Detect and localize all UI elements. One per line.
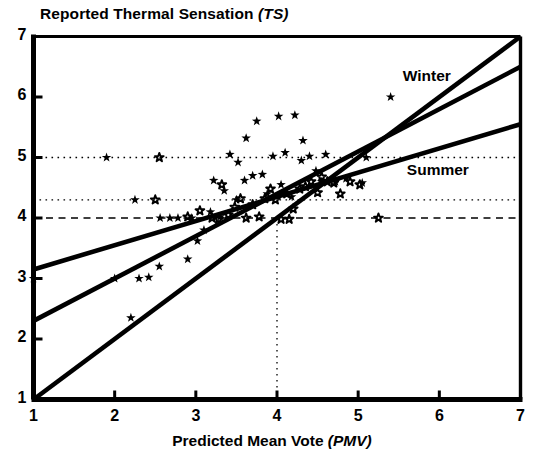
- data-point-summer: [196, 206, 205, 214]
- data-point-winter: [298, 136, 308, 145]
- data-point-winter: [252, 116, 262, 125]
- data-point-winter: [240, 175, 250, 184]
- data-point-summer: [374, 213, 383, 221]
- data-point-summer: [336, 189, 345, 197]
- summer-fit: [34, 124, 521, 269]
- data-point-winter: [305, 151, 315, 160]
- x-tick-label-4: 4: [264, 407, 290, 425]
- data-point-winter: [241, 133, 251, 142]
- data-point-summer: [183, 212, 192, 220]
- series-winter: [29, 92, 396, 322]
- y-tick-label-2: 2: [3, 328, 27, 346]
- series-label-winter: Winter: [403, 67, 451, 85]
- x-tick-label-6: 6: [426, 407, 452, 425]
- y-tick-label-3: 3: [3, 268, 27, 286]
- x-axis-label-text: Predicted Mean Vote: [172, 432, 323, 449]
- series-label-summer: Summer: [407, 161, 469, 179]
- y-tick-label-5: 5: [3, 147, 27, 165]
- data-point-summer: [155, 153, 164, 161]
- data-point-winter: [102, 153, 112, 162]
- data-point-winter: [274, 111, 284, 120]
- winter-fit: [34, 67, 521, 321]
- data-point-summer: [266, 184, 275, 192]
- data-point-winter: [183, 254, 193, 263]
- x-tick-label-3: 3: [183, 407, 209, 425]
- y-tick-label-6: 6: [3, 86, 27, 104]
- data-point-winter: [165, 213, 175, 222]
- data-point-winter: [386, 92, 396, 101]
- x-axis-label: Predicted Mean Vote (PMV): [0, 432, 544, 450]
- thermal-sensation-scatter-figure: Reported Thermal Sensation (TS) Predicte…: [0, 0, 544, 463]
- data-point-winter: [173, 213, 183, 222]
- data-point-winter: [144, 272, 154, 281]
- data-point-winter: [258, 169, 268, 178]
- y-tick-label-7: 7: [3, 26, 27, 44]
- data-point-winter: [126, 313, 136, 322]
- data-point-winter: [248, 171, 258, 180]
- x-tick-label-5: 5: [345, 407, 371, 425]
- data-point-summer: [217, 180, 226, 188]
- x-tick-label-1: 1: [21, 407, 47, 425]
- data-point-winter: [155, 213, 165, 222]
- data-point-summer: [236, 194, 245, 202]
- x-axis-label-symbol: (PMV): [328, 432, 372, 449]
- data-point-winter: [280, 148, 290, 157]
- x-tick-label-2: 2: [102, 407, 128, 425]
- data-point-summer: [151, 195, 160, 203]
- plot-canvas: [0, 0, 544, 463]
- y-tick-label-4: 4: [3, 207, 27, 225]
- data-point-winter: [134, 274, 144, 283]
- data-point-winter: [233, 157, 243, 166]
- x-tick-label-7: 7: [508, 407, 534, 425]
- data-point-winter: [290, 110, 300, 119]
- data-point-summer: [255, 212, 264, 220]
- data-point-winter: [268, 151, 278, 160]
- data-point-winter: [130, 195, 140, 204]
- y-tick-label-1: 1: [3, 389, 27, 407]
- data-point-winter: [155, 261, 165, 270]
